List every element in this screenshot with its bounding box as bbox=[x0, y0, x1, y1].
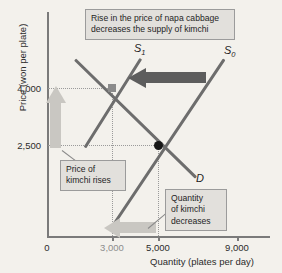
curve-label-s1: S1 bbox=[134, 42, 146, 57]
quantity-callout-line3: decreases bbox=[171, 216, 221, 227]
y-axis-line bbox=[47, 12, 49, 237]
new-equilibrium-marker bbox=[108, 84, 116, 92]
curve-label-s0: S0 bbox=[224, 44, 236, 59]
chart-figure: Price (won per plate) Quantity (plates p… bbox=[0, 0, 282, 273]
price-rise-arrow-head bbox=[46, 86, 66, 103]
price-callout-line2: kimchi rises bbox=[66, 175, 120, 186]
quantity-decrease-arrow-head bbox=[104, 218, 120, 238]
title-callout: Rise in the price of napa cabbage decrea… bbox=[85, 9, 235, 40]
price-guide-2500 bbox=[48, 145, 160, 146]
quantity-decrease-arrow-shaft bbox=[119, 222, 156, 233]
x-tick-5000: 5,000 bbox=[136, 242, 180, 253]
price-rise-arrow-shaft bbox=[50, 102, 61, 148]
curve-label-s0-sub: 0 bbox=[231, 50, 235, 59]
price-rises-callout: Price of kimchi rises bbox=[60, 160, 126, 191]
x-tick-9000: 9,000 bbox=[215, 242, 259, 253]
x-tick-3000: 3,000 bbox=[90, 242, 134, 253]
price-callout-line1: Price of bbox=[66, 164, 120, 175]
y-tick-2500: 2,500 bbox=[5, 140, 41, 151]
quantity-callout-line1: Quantity bbox=[171, 193, 221, 204]
x-axis-title: Quantity (plates per day) bbox=[150, 256, 254, 267]
supply-shift-arrow-head bbox=[128, 68, 146, 88]
y-axis-title: Price (won per plate) bbox=[17, 8, 28, 128]
x-tick-9000-mark bbox=[237, 236, 239, 241]
title-callout-line1: Rise in the price of napa cabbage bbox=[91, 13, 229, 24]
price-rise-arrow bbox=[50, 86, 61, 148]
title-callout-line2: decreases the supply of kimchi bbox=[91, 24, 229, 35]
supply-shift-arrow-shaft bbox=[145, 72, 206, 83]
x-tick-5000-mark bbox=[158, 236, 160, 241]
quantity-callout-line2: of kimchi bbox=[171, 204, 221, 215]
x-tick-0: 0 bbox=[25, 242, 69, 253]
original-equilibrium-marker bbox=[154, 141, 163, 150]
quantity-decreases-callout: Quantity of kimchi decreases bbox=[165, 189, 227, 231]
y-tick-4000: 4,000 bbox=[5, 83, 41, 94]
curve-label-s1-sub: 1 bbox=[141, 48, 145, 57]
curve-label-d: D bbox=[196, 172, 204, 184]
